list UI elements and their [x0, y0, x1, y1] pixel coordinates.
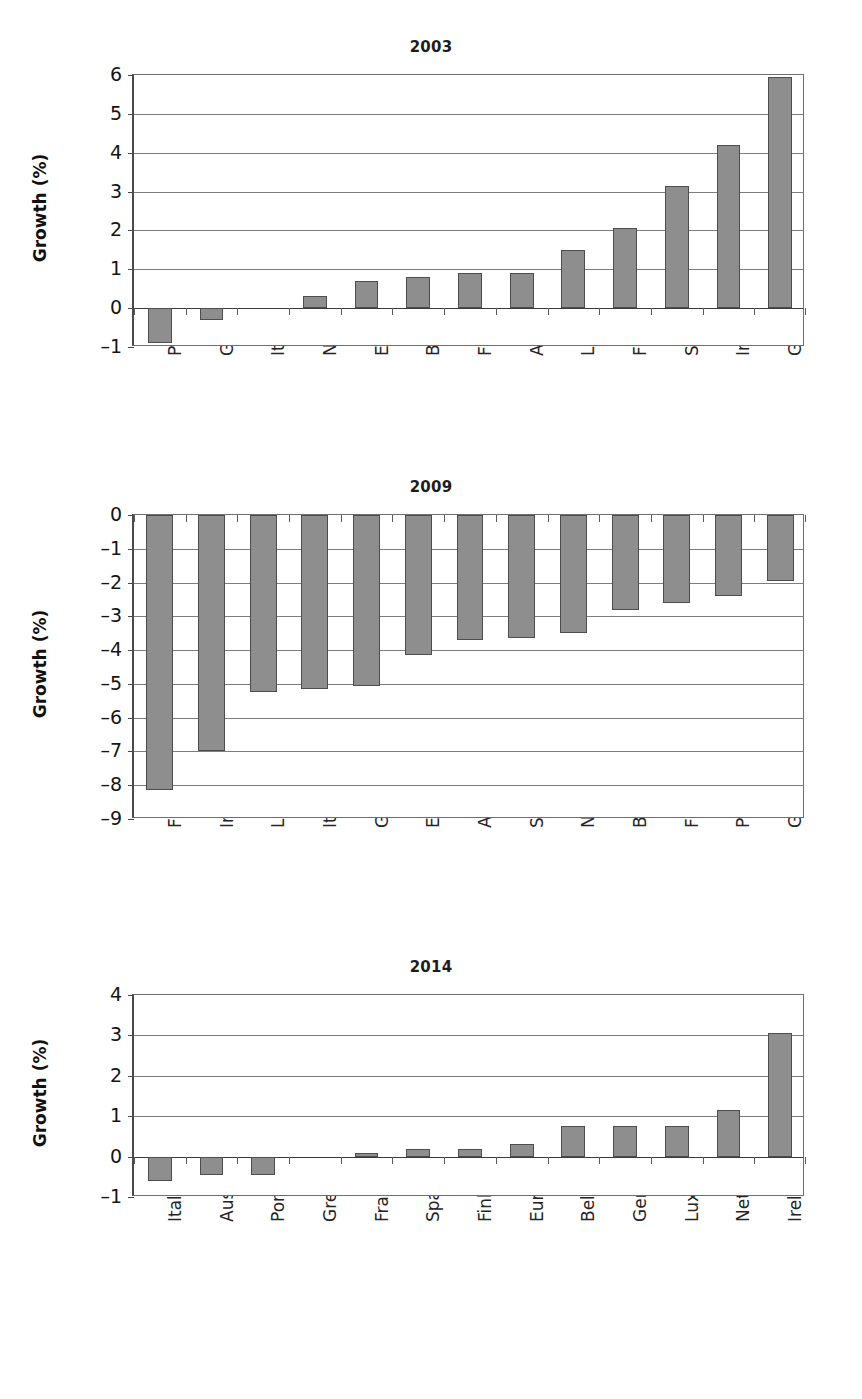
- bar: [508, 515, 535, 638]
- y-tick-label: 3: [110, 180, 122, 202]
- gridline: [134, 1076, 803, 1077]
- plot-area: [132, 74, 804, 346]
- bar: [353, 515, 380, 686]
- y-tick-labels: 6543210–1: [68, 74, 122, 346]
- y-tick-mark: [128, 269, 134, 270]
- gridline: [134, 192, 803, 193]
- bar: [458, 1149, 482, 1157]
- y-tick-label: –5: [100, 672, 122, 694]
- x-tick-mark: [805, 308, 806, 315]
- y-tick-label: –1: [100, 1185, 122, 1207]
- x-tick-mark: [703, 308, 704, 315]
- gridline: [134, 230, 803, 231]
- y-tick-mark: [128, 114, 134, 115]
- bar: [458, 273, 482, 308]
- x-tick-mark: [186, 515, 187, 522]
- bar: [665, 1126, 689, 1156]
- y-tick-mark: [128, 153, 134, 154]
- y-tick-mark: [128, 1116, 134, 1117]
- bar: [612, 515, 639, 610]
- y-tick-mark: [128, 192, 134, 193]
- bar: [355, 1153, 379, 1157]
- x-tick-mark: [392, 308, 393, 315]
- plot-area: [132, 514, 804, 818]
- x-tick-mark: [548, 515, 549, 522]
- y-tick-label: –2: [100, 571, 122, 593]
- y-tick-label: –3: [100, 604, 122, 626]
- x-tick-mark: [444, 1157, 445, 1164]
- x-tick-mark: [134, 515, 135, 522]
- x-tick-mark: [754, 515, 755, 522]
- x-tick-mark: [289, 308, 290, 315]
- x-tick-mark: [496, 308, 497, 315]
- x-tick-mark: [548, 308, 549, 315]
- x-tick-mark: [805, 1157, 806, 1164]
- y-tick-mark: [128, 995, 134, 996]
- gridline: [134, 684, 803, 685]
- x-tick-mark: [651, 1157, 652, 1164]
- bar: [715, 515, 742, 596]
- x-tick-mark: [341, 308, 342, 315]
- y-tick-mark: [128, 684, 134, 685]
- bar: [251, 1157, 275, 1175]
- bar: [561, 1126, 585, 1156]
- x-tick-mark: [651, 308, 652, 315]
- x-tick-mark: [134, 1157, 135, 1164]
- x-tick-mark: [392, 1157, 393, 1164]
- x-tick-mark: [703, 1157, 704, 1164]
- bar: [717, 1110, 741, 1156]
- x-tick-mark: [392, 515, 393, 522]
- bar: [510, 273, 534, 308]
- bar: [665, 186, 689, 308]
- bar: [198, 515, 225, 751]
- bar: [200, 1157, 224, 1175]
- bar: [613, 228, 637, 308]
- gridline: [134, 650, 803, 651]
- x-tick-mark: [341, 515, 342, 522]
- bar: [148, 308, 172, 343]
- y-tick-mark: [128, 1197, 134, 1198]
- y-tick-label: 4: [110, 141, 122, 163]
- gridline: [134, 751, 803, 752]
- gridline: [134, 153, 803, 154]
- bar: [768, 77, 792, 308]
- bar: [663, 515, 690, 603]
- x-tick-mark: [134, 308, 135, 315]
- y-tick-mark: [128, 718, 134, 719]
- y-tick-label: 0: [110, 503, 122, 525]
- bar: [303, 296, 327, 308]
- x-tick-mark: [651, 515, 652, 522]
- x-tick-mark: [703, 515, 704, 522]
- x-tick-mark: [237, 308, 238, 315]
- bar: [250, 515, 277, 692]
- y-tick-label: 5: [110, 102, 122, 124]
- x-tick-mark: [341, 1157, 342, 1164]
- x-tick-mark: [805, 515, 806, 522]
- gridline: [134, 1035, 803, 1036]
- y-tick-label: –4: [100, 638, 122, 660]
- plot-area: [132, 994, 804, 1196]
- bar: [768, 1033, 792, 1156]
- y-tick-label: 1: [110, 1104, 122, 1126]
- x-tick-mark: [444, 515, 445, 522]
- bar: [355, 281, 379, 308]
- y-tick-labels: 0–1–2–3–4–5–6–7–8–9: [68, 514, 122, 818]
- y-tick-label: –8: [100, 773, 122, 795]
- gridline: [134, 269, 803, 270]
- y-tick-label: –6: [100, 706, 122, 728]
- bar: [613, 1126, 637, 1156]
- y-tick-label: –1: [100, 335, 122, 357]
- gridline: [134, 785, 803, 786]
- bar: [406, 277, 430, 308]
- y-tick-mark: [128, 650, 134, 651]
- y-tick-label: 6: [110, 63, 122, 85]
- y-tick-label: 4: [110, 983, 122, 1005]
- y-tick-mark: [128, 75, 134, 76]
- gridline: [134, 718, 803, 719]
- bar: [200, 308, 224, 320]
- x-tick-mark: [599, 515, 600, 522]
- y-tick-label: –1: [100, 537, 122, 559]
- y-axis-label: Growth (%): [30, 108, 50, 308]
- gridline: [134, 1116, 803, 1117]
- x-tick-mark: [548, 1157, 549, 1164]
